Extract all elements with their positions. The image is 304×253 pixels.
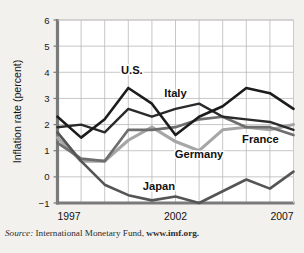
y-axis-tick-label: 2: [44, 119, 49, 130]
x-axis-tick-label: 2002: [164, 211, 187, 222]
source-prefix: Source:: [5, 228, 33, 238]
y-axis-title: Inflation rate (percent): [11, 60, 23, 164]
svg-text:Japan: Japan: [143, 180, 175, 192]
x-axis-tick-label: 2007: [270, 211, 293, 222]
y-axis-tick-label: 4: [44, 67, 50, 78]
series-label-us: U.S.U.S.: [121, 64, 143, 76]
svg-text:U.S.: U.S.: [121, 64, 143, 76]
y-axis-tick-label: 0: [44, 171, 49, 182]
source-text: International Monetary Fund,: [36, 228, 144, 238]
source-note: Source: International Monetary Fund, www…: [5, 228, 199, 238]
series-label-italy: ItalyItaly: [164, 87, 187, 99]
series-label-france: FranceFrance: [242, 133, 279, 145]
svg-text:France: France: [242, 133, 279, 145]
figure-container: −10123456Inflation rate (percent)1997200…: [0, 0, 304, 253]
x-axis-tick-label: 1997: [58, 211, 81, 222]
source-link[interactable]: www.imf.org.: [146, 228, 199, 238]
y-axis-tick-label: 1: [44, 145, 49, 156]
series-label-germany: GermanyGermany: [175, 148, 224, 160]
y-axis-tick-label: 3: [44, 93, 49, 104]
y-axis-tick-label: 5: [44, 41, 49, 52]
svg-text:Germany: Germany: [175, 148, 224, 160]
y-axis-tick-label: 6: [44, 15, 49, 26]
svg-text:Italy: Italy: [164, 87, 187, 99]
y-axis-tick-label: −1: [39, 198, 50, 209]
inflation-rate-line-chart: −10123456Inflation rate (percent)1997200…: [0, 0, 304, 253]
series-label-japan: JapanJapan: [143, 180, 175, 192]
